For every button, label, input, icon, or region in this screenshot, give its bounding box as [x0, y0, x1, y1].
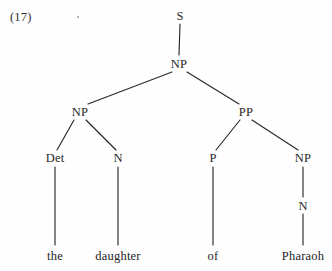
tree-node-np_top: NP — [171, 58, 187, 71]
tree-edge-pp-to-np_right — [252, 120, 298, 150]
tree-node-n_left: N — [113, 152, 122, 165]
tree-node-pp: PP — [239, 106, 253, 119]
tree-leaf-the: the — [47, 250, 63, 263]
tree-branch-lines — [0, 0, 332, 271]
tree-leaf-pharaoh: Pharaoh — [282, 250, 324, 263]
syntax-tree-figure: (17) SNPNPPPDetNPNPN thedaughterofPharao… — [0, 0, 332, 271]
tree-edge-np_top-to-np_left — [88, 72, 172, 104]
tree-edge-pp-to-p — [216, 120, 240, 150]
tree-edge-np_top-to-pp — [187, 72, 239, 104]
tree-edge-np_left-to-n_left — [86, 120, 116, 150]
scan-speck-artifact — [77, 16, 79, 18]
tree-node-det: Det — [46, 152, 65, 165]
tree-node-n_right: N — [298, 200, 307, 213]
tree-node-np_right: NP — [295, 152, 311, 165]
tree-node-s: S — [176, 10, 183, 23]
tree-node-np_left: NP — [72, 106, 88, 119]
tree-leaf-daughter: daughter — [95, 250, 140, 263]
tree-leaf-of: of — [208, 250, 219, 263]
tree-edge-np_left-to-det — [57, 120, 74, 150]
tree-edge-s-to-np_top — [179, 24, 180, 55]
example-number-label: (17) — [10, 11, 32, 24]
tree-node-p: P — [209, 152, 216, 165]
